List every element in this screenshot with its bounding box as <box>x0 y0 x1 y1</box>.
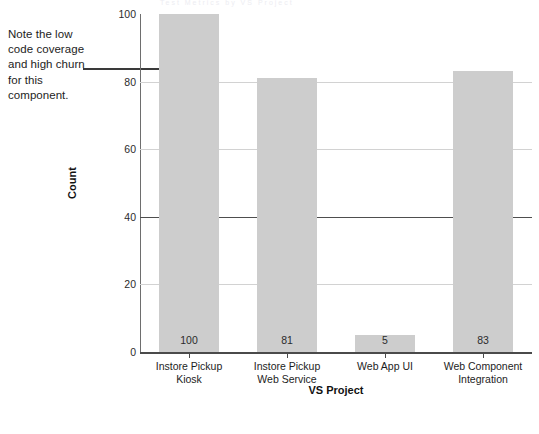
bar-value-label: 100 <box>159 334 219 346</box>
x-axis-category-label: Web ComponentIntegration <box>423 360 539 386</box>
y-tick-label: 40 <box>102 211 136 223</box>
x-tick <box>189 352 190 358</box>
y-tick-label: 20 <box>102 278 136 290</box>
y-axis-ticks: 020406080100 <box>100 14 136 352</box>
bar-value-label: 81 <box>257 334 317 346</box>
plot-area: 10081583 <box>140 14 532 352</box>
y-tick-label: 0 <box>102 346 136 358</box>
bar-value-label: 83 <box>453 334 513 346</box>
chart-root: Test Metrics by VS Project Note the low … <box>0 0 539 434</box>
y-tick-label: 60 <box>102 143 136 155</box>
x-tick <box>385 352 386 358</box>
bar <box>453 71 513 352</box>
y-tick-label: 80 <box>102 76 136 88</box>
x-axis-line <box>140 352 532 354</box>
y-tick-label: 100 <box>102 8 136 20</box>
x-tick <box>483 352 484 358</box>
bar <box>159 14 219 352</box>
bar-value-label: 5 <box>355 334 415 346</box>
y-axis-title: Count <box>66 167 78 199</box>
bar <box>257 78 317 352</box>
annotation-text: Note the low code coverage and high chur… <box>8 27 100 103</box>
clipped-title: Test Metrics by VS Project <box>160 0 294 6</box>
x-tick <box>287 352 288 358</box>
